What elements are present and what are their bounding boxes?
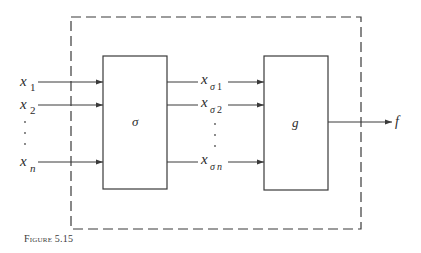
svg-text:1: 1 bbox=[217, 81, 222, 92]
svg-text:2: 2 bbox=[217, 104, 222, 115]
svg-text:x: x bbox=[200, 94, 208, 110]
input-label-n: x n bbox=[19, 153, 36, 174]
output-label: f bbox=[395, 114, 401, 129]
svg-text:x: x bbox=[200, 151, 208, 167]
svg-text:σ: σ bbox=[210, 161, 216, 172]
intermediate-label-2: x σ 2 bbox=[200, 94, 222, 115]
svg-text:σ: σ bbox=[210, 104, 216, 115]
svg-text:n: n bbox=[217, 161, 222, 172]
input-label-1: x 1 bbox=[19, 73, 36, 93]
intermediate-ellipsis bbox=[214, 123, 216, 147]
input-label-2: x 2 bbox=[19, 96, 36, 116]
permutation-composition-diagram: σ g x 1 x 2 x n x σ 1 x σ 2 bbox=[0, 0, 421, 253]
g-block-label: g bbox=[292, 115, 299, 130]
intermediate-label-1: x σ 1 bbox=[200, 71, 222, 92]
sigma-block-label: σ bbox=[132, 114, 139, 129]
figure-caption: Figure 5.15 bbox=[24, 233, 73, 244]
intermediate-label-n: x σ n bbox=[200, 151, 222, 172]
svg-text:x: x bbox=[19, 73, 27, 89]
svg-text:1: 1 bbox=[30, 81, 36, 93]
svg-text:σ: σ bbox=[210, 81, 216, 92]
svg-text:x: x bbox=[19, 153, 27, 169]
svg-text:x: x bbox=[200, 71, 208, 87]
svg-text:2: 2 bbox=[30, 104, 36, 116]
svg-text:x: x bbox=[19, 96, 27, 112]
svg-text:n: n bbox=[30, 162, 36, 174]
input-ellipsis bbox=[24, 121, 26, 145]
dashed-boundary bbox=[71, 17, 361, 229]
